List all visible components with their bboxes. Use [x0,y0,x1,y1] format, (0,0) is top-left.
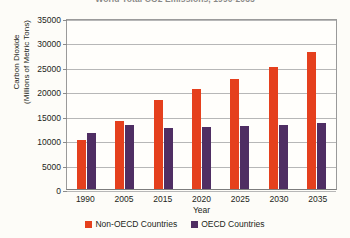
x-axis-title: Year [66,205,337,215]
legend-item[interactable]: Non-OECD Countries [85,219,177,229]
x-axis-tick-label: 2005 [105,191,144,204]
bar-group [259,20,297,189]
x-axis-tick-label: 2025 [221,191,260,204]
bar-group [182,20,220,189]
legend-label: Non-OECD Countries [95,219,177,229]
bar[interactable] [230,79,239,189]
bar[interactable] [154,100,163,189]
bar-group [67,20,105,189]
y-axis-tick-label: 25000 [15,64,61,74]
y-axis-tick-label: 0 [15,186,61,196]
plot-area: 35000300002500020000150001000050000 [66,19,337,190]
bar-group [105,20,143,189]
bar[interactable] [87,133,96,189]
legend-swatch [191,221,198,228]
bar[interactable] [164,128,173,189]
x-axis-tick-label: 1990 [66,191,105,204]
x-axis-tick-label: 2035 [298,191,337,204]
bar[interactable] [279,125,288,189]
y-axis-tick-label: 35000 [15,15,61,25]
bar[interactable] [202,127,211,189]
chart-title: World Total CO2 Emissions, 1990-2035 [0,0,350,4]
bar-group [298,20,336,189]
x-axis-tick-label: 2020 [182,191,221,204]
bar[interactable] [269,67,278,189]
chart-legend: Non-OECD CountriesOECD Countries [0,219,350,229]
y-axis-tick-label: 30000 [15,39,61,49]
x-axis-tick-labels: 1990200520152020202520302035 [66,191,337,204]
bar[interactable] [192,89,201,189]
bar[interactable] [307,52,316,189]
legend-item[interactable]: OECD Countries [191,219,264,229]
bar-group [221,20,259,189]
bar[interactable] [317,123,326,189]
x-axis-tick-label: 2015 [143,191,182,204]
bar[interactable] [240,126,249,189]
bar-group [144,20,182,189]
y-axis-tick-label: 15000 [15,113,61,123]
bar[interactable] [115,121,124,189]
bar[interactable] [77,140,86,189]
bar-groups [67,20,336,189]
y-axis-tick-label: 20000 [15,88,61,98]
y-axis-tick-label: 10000 [15,137,61,147]
x-axis-tick-label: 2030 [260,191,299,204]
bar[interactable] [125,125,134,189]
legend-label: OECD Countries [201,219,264,229]
legend-swatch [85,221,92,228]
chart-container: World Total CO2 Emissions, 1990-2035 Car… [0,0,350,238]
y-axis-tick-label: 5000 [15,162,61,172]
